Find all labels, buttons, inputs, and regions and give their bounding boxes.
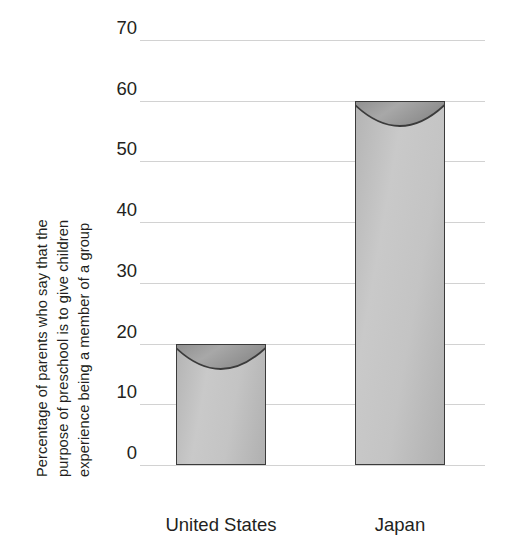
bar-arc-cap: [176, 345, 266, 391]
bar-japan: [355, 101, 445, 465]
x-axis-label-united-states: United States: [136, 514, 306, 536]
y-axis-tick-label: 70: [77, 17, 137, 39]
y-axis-tick-label: 30: [77, 260, 137, 282]
y-axis-tick-label: 60: [77, 78, 137, 100]
y-axis-tick-label: 20: [77, 321, 137, 343]
plot-area: 706050403020100United StatesJapan: [140, 40, 485, 465]
y-axis-title: Percentage of parents who say that the p…: [0, 0, 100, 500]
bar-arc-cap: [355, 102, 445, 148]
y-axis-tick-label: 0: [77, 442, 137, 464]
y-axis-tick-label: 40: [77, 199, 137, 221]
x-axis-label-japan: Japan: [315, 514, 485, 536]
gridline: [140, 465, 485, 466]
y-axis-title-line-2: purpose of preschool is to give children: [55, 220, 71, 477]
y-axis-tick-label: 50: [77, 138, 137, 160]
bar-united-states: [176, 344, 266, 465]
y-axis-title-line-1: Percentage of parents who say that the: [34, 219, 50, 477]
y-axis-tick-label: 10: [77, 381, 137, 403]
gridline: [140, 40, 485, 41]
